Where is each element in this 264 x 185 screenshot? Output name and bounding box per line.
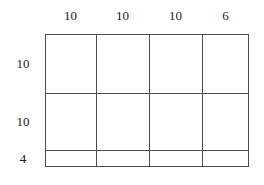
grid-diagram: 10 10 10 6 10 10 4 [0,0,264,185]
row-label-0-text: 10 [17,56,30,71]
column-label-3: 6 [202,7,249,25]
grid-vertical-line-3 [202,34,203,167]
column-label-1: 10 [96,7,149,25]
grid-cell-r2c3 [203,151,248,166]
grid-rectangle [45,34,249,167]
grid-cell-r2c1 [97,151,149,166]
grid-cell-r1c3 [203,94,248,150]
grid-horizontal-line-1 [45,93,249,94]
grid-vertical-line-1 [96,34,97,167]
grid-horizontal-line-3 [45,166,249,167]
column-label-2-text: 10 [169,8,182,23]
grid-cell-r0c2 [150,35,202,93]
grid-cell-r0c1 [97,35,149,93]
row-label-0: 10 [8,55,38,73]
row-label-1: 10 [8,113,38,131]
grid-vertical-line-4 [248,34,249,167]
grid-horizontal-line-2 [45,150,249,151]
grid-vertical-line-2 [149,34,150,167]
row-label-2-text: 4 [20,151,27,166]
grid-cell-r0c0 [46,35,96,93]
column-label-0: 10 [45,7,96,25]
grid-cell-r1c1 [97,94,149,150]
column-label-3-text: 6 [222,8,229,23]
grid-cell-r1c2 [150,94,202,150]
column-label-2: 10 [149,7,202,25]
grid-horizontal-line-0 [45,34,249,35]
column-label-0-text: 10 [64,8,77,23]
grid-vertical-line-0 [45,34,46,167]
grid-cell-r0c3 [203,35,248,93]
row-label-1-text: 10 [17,114,30,129]
row-label-2: 4 [8,150,38,168]
grid-cell-r2c2 [150,151,202,166]
grid-cell-r1c0 [46,94,96,150]
column-label-1-text: 10 [116,8,129,23]
grid-cell-r2c0 [46,151,96,166]
